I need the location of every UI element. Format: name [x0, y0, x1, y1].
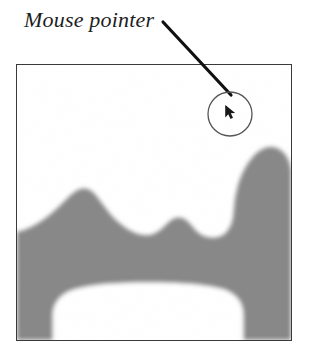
leader-line [163, 22, 231, 95]
callout-overlay [0, 0, 309, 353]
figure-container: Mouse pointer [0, 0, 309, 353]
mouse-pointer-icon[interactable] [225, 105, 235, 119]
